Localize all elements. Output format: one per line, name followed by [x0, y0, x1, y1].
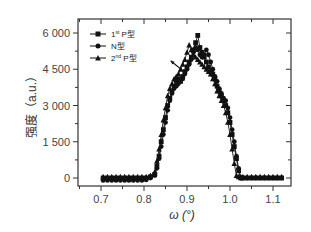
legend-label: 1st P型 — [111, 29, 135, 39]
x-tick-label: 1.0 — [222, 193, 237, 205]
x-tick-label: 0.8 — [136, 193, 151, 205]
x-tick-label: 0.7 — [93, 193, 108, 205]
series-circle — [101, 45, 284, 183]
y-tick-label: 4 500 — [42, 63, 70, 75]
x-tick-label: 1.1 — [265, 193, 280, 205]
y-tick-label: 1 500 — [42, 136, 70, 148]
legend: 1st P型N型2nd P型 — [90, 29, 137, 63]
y-tick-label: 3 000 — [42, 100, 70, 112]
y-tick-label: 0 — [64, 172, 70, 184]
legend-item: 1st P型 — [90, 29, 135, 39]
x-axis-title: ω (°) — [169, 208, 194, 222]
chart: 0.70.80.91.01.101 5003 0004 5006 000 1st… — [0, 0, 311, 232]
x-tick-label: 0.9 — [179, 193, 194, 205]
y-tick-label: 6 000 — [42, 27, 70, 39]
axes-frame — [78, 19, 291, 186]
legend-item: 2nd P型 — [90, 53, 137, 63]
y-axis-title: 强度（a.u.） — [24, 70, 39, 138]
legend-item: N型 — [90, 42, 125, 51]
legend-label: 2nd P型 — [111, 53, 137, 63]
legend-label: N型 — [111, 42, 125, 51]
